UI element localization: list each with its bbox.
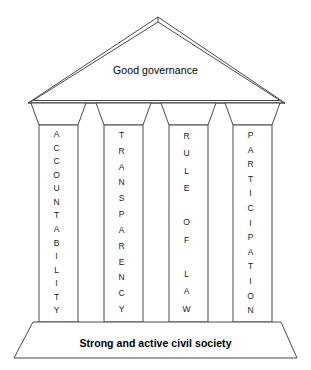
pediment-group bbox=[28, 17, 285, 103]
pillar-rule-of-law bbox=[161, 103, 216, 322]
pillar-transparency bbox=[96, 103, 151, 322]
pediment-outer-triangle bbox=[28, 17, 285, 103]
temple-illustration bbox=[0, 0, 311, 370]
shaft-accountability bbox=[39, 125, 78, 322]
capital-accountability bbox=[31, 103, 86, 125]
capital-rule-of-law bbox=[161, 103, 216, 125]
pillar-participation bbox=[225, 103, 280, 322]
shaft-participation bbox=[233, 125, 272, 322]
capital-transparency bbox=[96, 103, 151, 125]
pillar-accountability bbox=[31, 103, 86, 322]
base-platform bbox=[14, 322, 297, 358]
shaft-rule-of-law bbox=[169, 125, 208, 322]
good-governance-temple-diagram: Good governance ACCOUNTABILITY TRANSPARE… bbox=[0, 0, 311, 370]
shaft-transparency bbox=[104, 125, 143, 322]
capital-participation bbox=[225, 103, 280, 125]
